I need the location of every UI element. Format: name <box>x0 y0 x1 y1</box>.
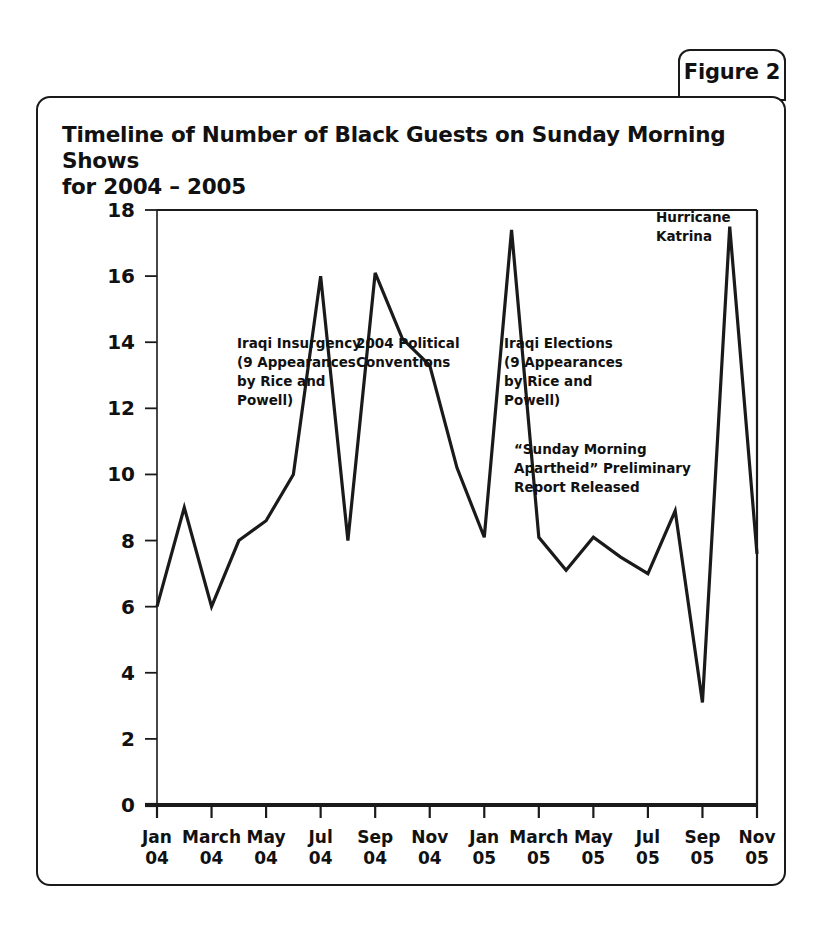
svg-text:May: May <box>247 827 286 847</box>
svg-text:4: 4 <box>121 661 135 685</box>
svg-text:Jul: Jul <box>635 827 660 847</box>
annotation-sunday-morning-apartheid: “Sunday MorningApartheid” PreliminaryRep… <box>514 441 691 495</box>
svg-text:Powell): Powell) <box>504 392 560 408</box>
svg-text:Iraqi Insurgency: Iraqi Insurgency <box>237 335 361 351</box>
svg-text:May: May <box>574 827 613 847</box>
y-axis-tick-labels: 024681012141618 <box>107 198 135 817</box>
svg-text:Jan: Jan <box>468 827 499 847</box>
svg-text:Jan: Jan <box>141 827 172 847</box>
svg-text:16: 16 <box>107 264 135 288</box>
annotation-political-conventions: 2004 PoliticalConventions <box>356 335 460 370</box>
svg-text:Apartheid” Preliminary: Apartheid” Preliminary <box>514 460 691 476</box>
annotation-iraqi-insurgency: Iraqi Insurgency(9 Appearancesby Rice an… <box>237 335 361 408</box>
svg-text:04: 04 <box>309 848 333 868</box>
svg-text:18: 18 <box>107 198 135 222</box>
svg-text:Sep: Sep <box>357 827 393 847</box>
svg-text:05: 05 <box>636 848 660 868</box>
svg-text:05: 05 <box>745 848 769 868</box>
svg-text:Report Released: Report Released <box>514 479 640 495</box>
annotation-hurricane-katrina: HurricaneKatrina <box>656 209 731 244</box>
svg-text:04: 04 <box>200 848 224 868</box>
svg-text:05: 05 <box>691 848 715 868</box>
svg-text:2004 Political: 2004 Political <box>356 335 460 351</box>
svg-text:04: 04 <box>418 848 442 868</box>
svg-text:05: 05 <box>527 848 551 868</box>
svg-text:(9 Appearances: (9 Appearances <box>504 354 623 370</box>
svg-text:Iraqi Elections: Iraqi Elections <box>504 335 613 351</box>
svg-text:14: 14 <box>107 330 135 354</box>
svg-text:05: 05 <box>582 848 606 868</box>
svg-text:March: March <box>509 827 568 847</box>
figure-tab-label: Figure 2 <box>680 60 784 84</box>
svg-text:March: March <box>182 827 241 847</box>
svg-text:Powell): Powell) <box>237 392 293 408</box>
svg-text:04: 04 <box>254 848 278 868</box>
svg-text:Nov: Nov <box>739 827 776 847</box>
svg-text:04: 04 <box>363 848 387 868</box>
svg-text:04: 04 <box>145 848 169 868</box>
svg-text:(9 Appearances: (9 Appearances <box>237 354 356 370</box>
svg-text:Hurricane: Hurricane <box>656 209 731 225</box>
svg-text:Sep: Sep <box>684 827 720 847</box>
svg-text:Jul: Jul <box>308 827 333 847</box>
annotation-iraqi-elections: Iraqi Elections(9 Appearancesby Rice and… <box>504 335 623 408</box>
svg-text:6: 6 <box>121 595 135 619</box>
chart-plot-area: 024681012141618 Jan04March04May04Jul04Se… <box>38 98 788 888</box>
svg-text:0: 0 <box>121 793 135 817</box>
svg-text:8: 8 <box>121 529 135 553</box>
figure-card: Timeline of Number of Black Guests on Su… <box>36 96 786 886</box>
x-axis-tick-labels: Jan04March04May04Jul04Sep04Nov04Jan05Mar… <box>141 827 775 868</box>
svg-text:by Rice and: by Rice and <box>504 373 592 389</box>
chart-axes <box>145 210 757 818</box>
line-chart-svg: 024681012141618 Jan04March04May04Jul04Se… <box>38 98 788 888</box>
svg-text:by Rice and: by Rice and <box>237 373 325 389</box>
svg-text:Conventions: Conventions <box>356 354 450 370</box>
svg-text:12: 12 <box>107 396 135 420</box>
svg-text:10: 10 <box>107 462 135 486</box>
svg-text:Nov: Nov <box>411 827 448 847</box>
svg-text:“Sunday Morning: “Sunday Morning <box>514 441 647 457</box>
svg-text:2: 2 <box>121 727 135 751</box>
figure-tab: Figure 2 <box>678 49 786 101</box>
svg-text:Katrina: Katrina <box>656 228 712 244</box>
svg-text:05: 05 <box>472 848 496 868</box>
